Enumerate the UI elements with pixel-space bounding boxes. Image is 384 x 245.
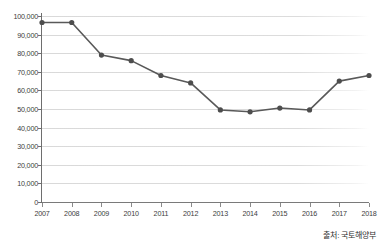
data-point-marker xyxy=(218,107,223,112)
y-axis-tick-mark xyxy=(38,183,42,184)
x-axis-tick-mark xyxy=(310,203,311,207)
x-axis-tick-label: 2018 xyxy=(361,209,376,218)
x-axis-tick-label: 2012 xyxy=(183,209,198,218)
x-axis-tick-label: 2015 xyxy=(272,209,287,218)
y-axis-tick-mark xyxy=(38,146,42,147)
x-axis-tick-mark xyxy=(220,203,221,207)
series-markers xyxy=(39,20,371,114)
y-axis-tick-mark xyxy=(38,53,42,54)
data-point-marker xyxy=(366,73,371,78)
data-point-marker xyxy=(39,20,44,25)
y-axis-tick-mark xyxy=(38,72,42,73)
x-axis-tick-label: 2016 xyxy=(302,209,317,218)
x-axis-tick-mark xyxy=(161,203,162,207)
x-axis-tick-label: 2007 xyxy=(34,209,49,218)
x-axis-tick-mark xyxy=(280,203,281,207)
x-axis-tick-mark xyxy=(42,203,43,207)
data-point-marker xyxy=(129,58,134,63)
y-axis-tick-mark xyxy=(38,165,42,166)
x-axis-tick-label: 2010 xyxy=(124,209,139,218)
x-axis-tick-label: 2009 xyxy=(94,209,109,218)
data-point-marker xyxy=(337,79,342,84)
y-axis-tick-mark xyxy=(38,109,42,110)
data-point-marker xyxy=(307,107,312,112)
x-axis-tick-mark xyxy=(72,203,73,207)
line-chart-figure: 010,00020,00030,00040,00050,00060,00070,… xyxy=(0,0,384,245)
y-axis-tick-mark xyxy=(38,90,42,91)
y-axis-tick-mark xyxy=(38,16,42,17)
y-axis-tick-mark xyxy=(38,128,42,129)
x-axis-tick-mark xyxy=(339,203,340,207)
data-point-marker xyxy=(277,105,282,110)
x-axis-tick-mark xyxy=(131,203,132,207)
x-axis-tick-mark xyxy=(369,203,370,207)
data-point-marker xyxy=(158,73,163,78)
data-point-marker xyxy=(99,52,104,57)
x-axis-tick-label: 2014 xyxy=(242,209,257,218)
x-axis-tick-mark xyxy=(101,203,102,207)
data-point-marker xyxy=(247,109,252,114)
x-axis-tick-mark xyxy=(250,203,251,207)
y-axis-tick-mark xyxy=(38,35,42,36)
x-axis-tick-label: 2008 xyxy=(64,209,79,218)
series-line xyxy=(42,23,369,112)
x-axis-tick-label: 2013 xyxy=(213,209,228,218)
x-axis-tick-label: 2017 xyxy=(332,209,347,218)
x-axis-tick-mark xyxy=(191,203,192,207)
data-point-marker xyxy=(188,80,193,85)
source-attribution: 출처: 국토해양부 xyxy=(323,229,376,240)
data-point-marker xyxy=(69,20,74,25)
x-axis-tick-label: 2011 xyxy=(154,209,169,218)
